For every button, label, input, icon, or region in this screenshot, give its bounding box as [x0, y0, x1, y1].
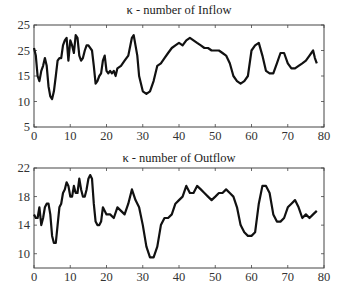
x-tick-label: 40	[173, 129, 186, 143]
x-tick-label: 70	[282, 129, 295, 143]
x-tick-label: 60	[245, 270, 258, 284]
outflow-chart: 0102030405060708022181410	[0, 147, 343, 294]
x-tick-label: 50	[209, 270, 222, 284]
data-line	[34, 175, 317, 257]
x-tick-label: 10	[64, 270, 77, 284]
x-tick-label: 10	[64, 129, 77, 143]
y-tick-label: 5	[24, 120, 30, 134]
plot-frame	[34, 168, 324, 268]
outflow-chart-panel: κ - number of Outflow 010203040506070802…	[0, 147, 343, 294]
x-tick-label: 0	[31, 270, 37, 284]
y-tick-label: 25	[18, 18, 31, 32]
y-tick-label: 25	[18, 44, 31, 58]
y-tick-label: 18	[18, 190, 31, 204]
x-tick-label: 80	[318, 270, 331, 284]
y-tick-label: 15	[18, 69, 31, 83]
y-tick-label: 22	[18, 161, 31, 175]
x-tick-label: 40	[173, 270, 186, 284]
x-tick-label: 20	[100, 270, 113, 284]
x-tick-label: 0	[31, 129, 37, 143]
x-tick-label: 60	[245, 129, 258, 143]
y-tick-label: 10	[18, 247, 31, 261]
x-tick-label: 20	[100, 129, 113, 143]
inflow-chart-panel: κ - number of Inflow 0102030405060708025…	[0, 0, 343, 147]
x-tick-label: 30	[137, 129, 150, 143]
y-tick-label: 10	[18, 95, 31, 109]
data-line	[34, 35, 317, 99]
x-tick-label: 30	[137, 270, 150, 284]
x-tick-label: 50	[209, 129, 222, 143]
x-tick-label: 80	[318, 129, 331, 143]
x-tick-label: 70	[282, 270, 295, 284]
inflow-chart: 01020304050607080252515105	[0, 0, 343, 147]
y-tick-label: 14	[18, 218, 31, 232]
